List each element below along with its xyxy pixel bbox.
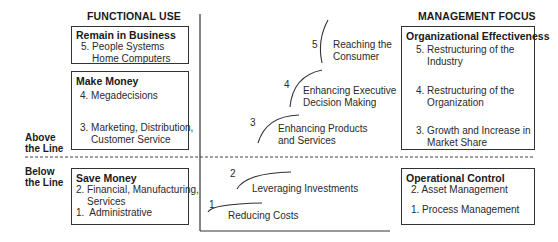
box-title: Make Money — [76, 75, 138, 87]
functional-use-heading: FUNCTIONAL USE — [87, 10, 181, 22]
stage-4-label: Enhancing Executive Decision Making — [303, 85, 396, 108]
above-the-line-label: Above the Line — [25, 132, 63, 154]
management-item: 1. Process Management — [411, 204, 519, 216]
stage-1-number: 1 — [209, 199, 215, 210]
functional-item: 1. Administrative — [76, 207, 152, 219]
functional-item: 4. Megadecisions — [80, 90, 158, 102]
management-item: 2. Asset Management — [411, 184, 508, 196]
functional-item: 3. Marketing, Distribution, Customer Ser… — [80, 122, 193, 145]
management-item: 3. Growth and Increase in Market Share — [416, 125, 531, 148]
make-money-box: Make Money 4. Megadecisions 3. Marketing… — [71, 71, 189, 150]
functional-item: 2. Financial, Manufacturing, Services — [76, 184, 199, 207]
operational-control-box: Operational Control 2. Asset Management … — [401, 168, 535, 225]
management-item: 4. Restructuring of the Organization — [416, 85, 514, 108]
stage-3-number: 3 — [250, 117, 256, 128]
stage-2-label: Leveraging Investments — [252, 183, 358, 195]
box-title: Remain in Business — [76, 29, 176, 41]
stage-4-number: 4 — [284, 79, 290, 90]
functional-item: 5. People Systems Home Computers — [81, 41, 170, 64]
stage-5-label: Reaching the Consumer — [333, 39, 392, 62]
stage-2-number: 2 — [230, 168, 236, 179]
remain-in-business-box: Remain in Business 5. People Systems Hom… — [71, 26, 189, 64]
organizational-effectiveness-box: Organizational Effectiveness 5. Restruct… — [401, 26, 535, 150]
management-item: 5. Restructuring of the Industry — [416, 44, 514, 67]
box-title: Organizational Effectiveness — [406, 30, 550, 42]
stage-5-number: 5 — [312, 39, 318, 50]
save-money-box: Save Money 2. Financial, Manufacturing, … — [71, 168, 189, 225]
box-title: Operational Control — [406, 172, 505, 184]
stage-3-label: Enhancing Products and Services — [278, 123, 368, 146]
box-title: Save Money — [76, 172, 137, 184]
stage-1-label: Reducing Costs — [228, 210, 299, 222]
stage-5-curve — [320, 20, 328, 63]
below-the-line-label: Below the Line — [25, 166, 63, 188]
management-focus-heading: MANAGEMENT FOCUS — [418, 10, 536, 22]
